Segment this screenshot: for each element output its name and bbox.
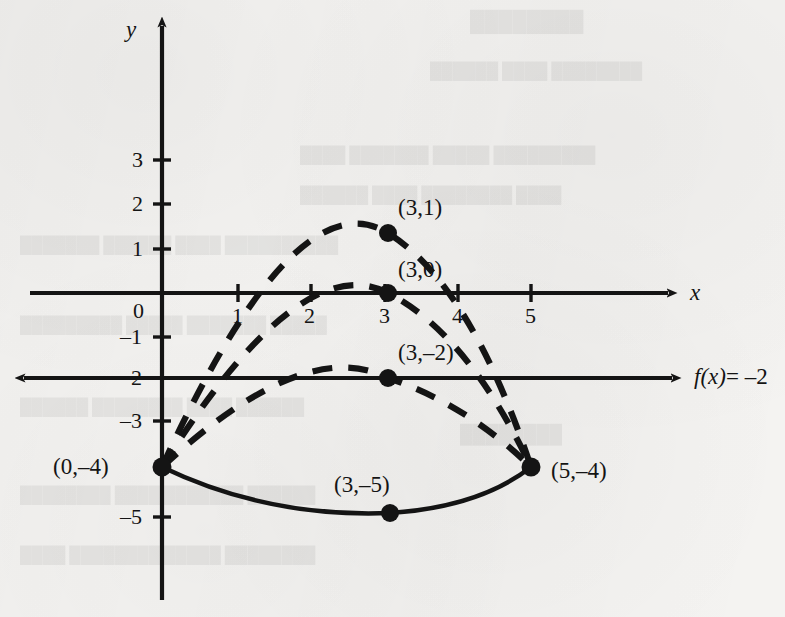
curve-vertex-3-minus-5 [162, 467, 531, 513]
y-axis [153, 26, 171, 600]
curve-vertex-3-1 [162, 224, 531, 467]
curve-vertex-3-minus-2 [162, 367, 531, 467]
point-0-m4 [153, 458, 172, 477]
graph-canvas [0, 0, 785, 617]
point-3-1 [379, 224, 397, 242]
point-3-0 [379, 284, 397, 302]
point-5-m4 [522, 458, 541, 477]
point-3-m5 [381, 504, 399, 522]
plotted-points [153, 224, 541, 522]
point-3-m2 [379, 369, 397, 387]
textbook-figure: ████████ ██████ ████ ████████ ████ █████… [0, 0, 785, 617]
